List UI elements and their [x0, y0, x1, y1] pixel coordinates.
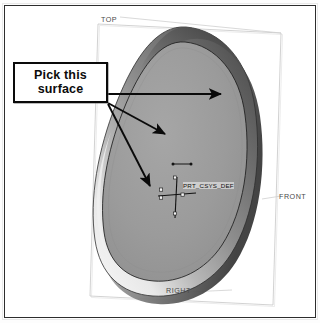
- pick-surface-callout[interactable]: Pick this surface: [13, 62, 108, 103]
- callout-line-2: surface: [38, 83, 84, 97]
- cad-screenshot: Pick this surface TOP FRONT RIGHT PRT_CS…: [0, 0, 320, 323]
- callout-line-1: Pick this: [34, 69, 87, 83]
- callout-arrow-2: [108, 103, 165, 134]
- callout-arrows: [0, 0, 320, 323]
- callout-arrow-3: [108, 104, 150, 186]
- cad-viewport[interactable]: Pick this surface TOP FRONT RIGHT PRT_CS…: [0, 0, 320, 323]
